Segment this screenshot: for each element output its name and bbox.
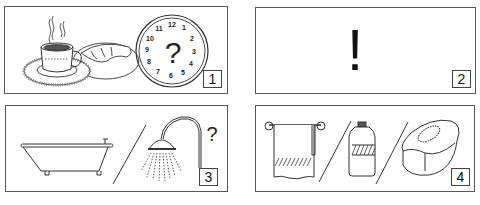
question-mark: ? <box>206 123 217 145</box>
clock-number-12: 12 <box>168 21 176 28</box>
towel-rail-icon <box>265 122 325 179</box>
toiletries-illustration <box>256 106 476 193</box>
panel-number-badge: 1 <box>203 70 222 88</box>
clock-number-4: 4 <box>189 60 193 67</box>
shower-head-icon <box>141 117 201 181</box>
panel-1: 12 1 2 3 4 5 6 7 8 9 10 11 ? 1 <box>4 6 228 94</box>
clock-number-9: 9 <box>145 46 149 53</box>
clock-number-6: 6 <box>169 72 173 79</box>
clock-number-3: 3 <box>192 48 196 55</box>
panel-4: 4 <box>255 105 475 192</box>
clock-number-8: 8 <box>147 58 151 65</box>
question-mark: ? <box>165 36 182 69</box>
exclamation-mark: ! <box>347 21 363 79</box>
clock-number-2: 2 <box>190 35 194 42</box>
clock-icon: 12 1 2 3 4 5 6 7 8 9 10 11 ? <box>136 15 208 87</box>
panel-number-badge: 3 <box>199 168 218 186</box>
panel-3: ? 3 <box>5 105 228 192</box>
divider-slash <box>113 125 146 184</box>
clock-number-11: 11 <box>155 25 163 32</box>
clock-number-7: 7 <box>156 68 160 75</box>
breakfast-illustration: 12 1 2 3 4 5 6 7 8 9 10 11 ? <box>5 7 229 95</box>
clock-number-1: 1 <box>182 24 186 31</box>
clock-number-10: 10 <box>146 35 154 42</box>
bathtub-icon <box>21 139 113 175</box>
panel-number-badge: 2 <box>452 70 471 88</box>
panel-number-badge: 4 <box>451 168 470 186</box>
bath-shower-illustration: ? <box>6 106 229 193</box>
panel-2: ! 2 <box>255 7 476 94</box>
clock-number-5: 5 <box>181 69 185 76</box>
bottle-icon <box>349 122 375 176</box>
steam-icon <box>49 16 65 43</box>
divider-slash <box>319 121 351 182</box>
